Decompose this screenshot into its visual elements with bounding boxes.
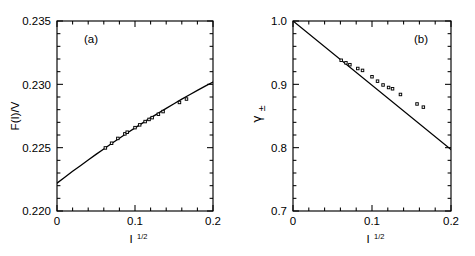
- y-tick-label: 1.0: [271, 15, 287, 27]
- data-point-marker: [391, 88, 394, 91]
- data-point-marker: [382, 84, 385, 87]
- data-point-marker: [349, 63, 352, 65]
- x-axis-title-base: I: [366, 233, 369, 245]
- data-point-marker: [422, 106, 425, 109]
- data-point-marker: [399, 93, 402, 96]
- x-tick-label: 0: [290, 215, 296, 227]
- panel-tag-label: (b): [414, 33, 428, 45]
- gamma-symbol: γ: [249, 115, 264, 123]
- gamma-subscript: ±: [257, 105, 267, 112]
- series-markers: [340, 59, 425, 108]
- x-axis-title: I1/2: [366, 232, 384, 246]
- y-axis-title-gamma: γ±: [249, 105, 267, 123]
- figure-container: 00.10.20.2200.2250.2300.235I1/2F(I)/V(a)…: [0, 0, 475, 256]
- data-point-marker: [357, 67, 360, 70]
- y-axis-title: γ±: [249, 105, 267, 123]
- plot-frame: [293, 21, 451, 211]
- x-axis-title-exponent: 1/2: [374, 232, 384, 241]
- y-axis-tick-labels: 0.70.80.91.0: [271, 15, 287, 217]
- data-point-marker: [416, 103, 419, 106]
- data-point-marker: [345, 62, 348, 65]
- y-tick-label: 0.9: [271, 79, 287, 91]
- y-tick-label: 0.8: [271, 142, 287, 154]
- data-point-marker: [361, 69, 364, 72]
- panel-b-plot: 00.10.20.70.80.91.0I1/2γ±(b): [0, 0, 475, 256]
- axis-ticks: [293, 21, 451, 211]
- data-point-marker: [376, 80, 379, 83]
- data-point-marker: [387, 86, 390, 89]
- data-point-marker: [371, 75, 374, 78]
- x-tick-label: 0.2: [443, 215, 459, 227]
- y-tick-label: 0.7: [271, 205, 287, 217]
- data-point-marker: [340, 59, 343, 62]
- x-tick-label: 0.1: [364, 215, 380, 227]
- x-axis-tick-labels: 00.10.2: [290, 215, 459, 227]
